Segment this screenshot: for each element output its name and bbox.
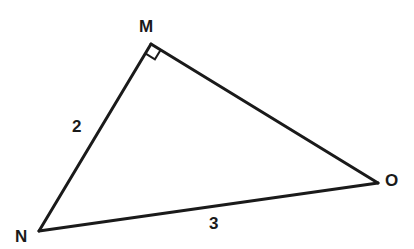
- vertex-label-o: O: [385, 171, 398, 190]
- side-mn: [39, 44, 151, 231]
- triangle-diagram: M N O 2 3: [0, 0, 414, 249]
- vertex-label-n: N: [15, 227, 27, 246]
- vertex-label-m: M: [139, 17, 153, 36]
- side-length-no: 3: [209, 214, 218, 233]
- triangle-svg: M N O 2 3: [0, 0, 414, 249]
- side-length-mn: 2: [72, 117, 81, 136]
- side-mo: [151, 44, 378, 183]
